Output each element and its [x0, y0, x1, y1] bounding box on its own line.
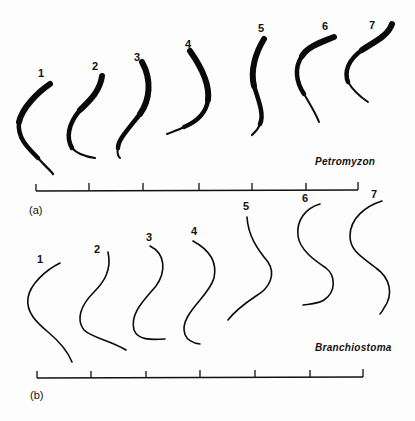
amphioxus-body-2 [80, 252, 126, 350]
lamprey-body-5 [252, 39, 264, 135]
frame-label-b-1: 1 [37, 253, 43, 265]
lamprey-body-2 [69, 76, 102, 158]
lamprey-body-4 [167, 51, 208, 134]
amphioxus-body-4 [184, 241, 215, 344]
panel-a: 1 2 3 4 5 6 7 [19, 19, 392, 216]
panel-label-b: (b) [30, 389, 43, 401]
frame-label-b-6: 6 [302, 192, 308, 204]
panel-b: 1 2 3 4 5 6 7 Branchiostoma (b) [28, 188, 392, 401]
lamprey-body-1 [19, 84, 53, 174]
species-name-branchiostoma: Branchiostoma [315, 342, 392, 353]
amphioxus-body-5 [228, 217, 272, 320]
frame-label-b-5: 5 [243, 200, 249, 212]
frame-label-b-3: 3 [146, 231, 152, 243]
panel-label-a: (a) [29, 204, 42, 216]
frame-label-b-2: 2 [94, 243, 100, 255]
frame-label-a-2: 2 [92, 60, 98, 72]
frame-label-a-5: 5 [258, 22, 264, 34]
scale-bar-b [37, 369, 363, 378]
figure-canvas: 1 2 3 4 5 6 7 [0, 0, 415, 421]
amphioxus-body-3 [133, 246, 165, 339]
frame-label-a-1: 1 [38, 67, 44, 79]
frame-label-a-7: 7 [369, 19, 375, 31]
amphioxus-body-1 [28, 263, 72, 362]
swimming-sequence-figure: 1 2 3 4 5 6 7 [0, 0, 415, 421]
scale-bar-a [36, 182, 358, 191]
frame-label-a-6: 6 [322, 20, 328, 32]
lamprey-body-3 [118, 62, 149, 158]
frame-label-b-4: 4 [191, 225, 198, 237]
amphioxus-body-7 [350, 201, 390, 314]
lamprey-body-7 [347, 24, 392, 102]
species-name-petromyzon: Petromyzon [315, 156, 375, 167]
frame-label-b-7: 7 [371, 188, 377, 200]
lamprey-body-6 [297, 37, 334, 122]
amphioxus-body-6 [298, 204, 334, 305]
